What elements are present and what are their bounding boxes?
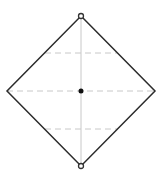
rotated-square-diagram (0, 0, 161, 176)
diagram-canvas (0, 0, 161, 176)
bottom-vertex-marker[interactable] (79, 164, 84, 169)
center-dot[interactable] (79, 89, 84, 94)
top-vertex-marker[interactable] (79, 14, 84, 19)
